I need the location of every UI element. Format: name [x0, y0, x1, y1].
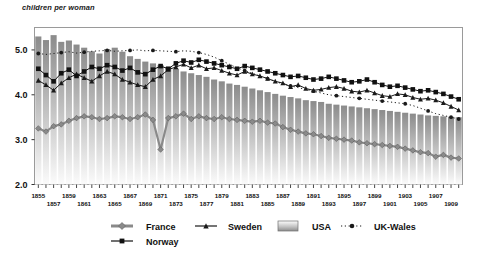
data-point-marker	[281, 73, 286, 78]
usa-bar	[242, 87, 248, 185]
usa-bar	[158, 65, 164, 184]
data-point-marker	[181, 58, 186, 63]
data-point-marker	[326, 75, 331, 80]
data-point-marker	[82, 50, 86, 54]
data-point-marker	[158, 64, 163, 69]
usa-bar	[433, 116, 439, 185]
data-point-marker	[357, 96, 361, 100]
legend-item-usa[interactable]: USA	[278, 221, 332, 232]
data-point-marker	[265, 69, 270, 74]
data-point-marker	[135, 70, 140, 75]
legend-item-uk-wales[interactable]: UK-Wales	[341, 222, 416, 232]
usa-bar	[326, 104, 332, 185]
x-tick-label: 1871	[154, 192, 168, 199]
data-point-marker	[273, 71, 278, 76]
x-tick-label: 1889	[291, 200, 305, 207]
data-point-marker	[174, 61, 179, 66]
data-point-marker	[74, 74, 79, 79]
data-point-marker	[59, 51, 63, 55]
data-point-marker	[235, 66, 240, 71]
data-point-marker	[97, 66, 102, 71]
data-point-marker	[311, 77, 316, 82]
usa-bar	[135, 59, 141, 185]
x-tick-label: 1863	[93, 192, 107, 199]
x-tick-label: 1865	[108, 200, 122, 207]
x-tick-label: 1883	[245, 192, 259, 199]
x-tick-label: 1869	[138, 200, 152, 207]
y-tick-label: 3.0	[15, 135, 28, 145]
data-point-marker	[388, 84, 393, 89]
usa-bar	[219, 81, 225, 184]
x-tick-label: 1905	[414, 200, 428, 207]
data-point-marker	[258, 67, 263, 72]
chart-container: children per woman 2.03.04.05.0 18551857…	[0, 0, 482, 258]
data-point-marker	[319, 76, 324, 81]
x-tick-label: 1895	[337, 192, 351, 199]
legend-label: Sweden	[228, 222, 262, 232]
legend-item-norway[interactable]: Norway	[111, 237, 179, 247]
usa-bar	[188, 73, 194, 184]
data-point-marker	[342, 78, 347, 83]
data-point-marker	[128, 66, 133, 71]
data-point-marker	[220, 59, 224, 63]
usa-bar	[196, 75, 202, 184]
data-point-marker	[219, 63, 224, 68]
data-point-marker	[82, 69, 87, 74]
data-point-marker	[36, 66, 41, 71]
x-tick-label: 1885	[261, 200, 275, 207]
data-point-marker	[372, 80, 377, 85]
data-point-marker	[112, 65, 117, 70]
usa-bar	[295, 98, 301, 184]
data-point-marker	[44, 73, 49, 78]
x-tick-label: 1867	[123, 192, 137, 199]
data-point-marker	[227, 65, 232, 70]
data-point-marker	[334, 76, 339, 81]
x-axis-ticks: 1855185718591861186318651867186918711873…	[31, 185, 458, 207]
usa-bar	[249, 89, 255, 185]
usa-bar	[448, 117, 454, 185]
x-tick-label: 1887	[276, 192, 290, 199]
usa-bar	[280, 96, 286, 185]
data-point-marker	[119, 223, 126, 230]
data-point-marker	[67, 67, 72, 72]
data-point-marker	[449, 115, 453, 119]
x-tick-label: 1893	[322, 200, 336, 207]
data-point-marker	[105, 63, 110, 68]
usa-bar	[211, 80, 217, 185]
data-point-marker	[411, 87, 416, 92]
y-tick-label: 5.0	[15, 45, 28, 55]
data-point-marker	[242, 64, 247, 69]
x-tick-label: 1899	[368, 192, 382, 199]
x-tick-label: 1855	[31, 192, 45, 199]
data-point-marker	[349, 80, 354, 85]
y-tick-label: 4.0	[15, 90, 28, 100]
data-point-marker	[197, 58, 202, 63]
data-point-marker	[166, 66, 171, 71]
data-point-marker	[204, 59, 209, 64]
data-point-marker	[288, 75, 293, 80]
legend-item-sweden[interactable]: Sweden	[195, 222, 262, 232]
legend-label: USA	[312, 222, 332, 232]
data-point-marker	[143, 72, 148, 77]
legend-label: UK-Wales	[374, 222, 416, 232]
usa-bar	[142, 62, 148, 185]
data-point-marker	[441, 92, 446, 97]
usa-bar	[272, 94, 278, 185]
legend-swatch-usa	[278, 221, 298, 231]
data-point-marker	[304, 75, 309, 80]
x-tick-label: 1857	[47, 200, 61, 207]
data-point-marker	[426, 88, 431, 93]
x-tick-label: 1859	[62, 192, 76, 199]
data-point-marker	[403, 85, 408, 90]
data-point-marker	[334, 94, 338, 98]
usa-bar	[287, 97, 293, 184]
usa-bar	[303, 100, 309, 184]
legend-label: France	[146, 222, 176, 232]
data-point-marker	[189, 60, 194, 65]
data-point-marker	[380, 99, 384, 103]
data-point-marker	[120, 68, 125, 73]
usa-bar	[43, 40, 49, 184]
usa-bar	[341, 106, 347, 185]
data-point-marker	[380, 83, 385, 88]
legend-item-france[interactable]: France	[111, 222, 176, 232]
